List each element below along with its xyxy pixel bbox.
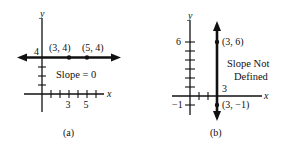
panel-a-left-arrow-icon [17,54,27,62]
panel-b-up-arrow-icon [213,21,221,31]
panel-a-x-tick-label-3: 3 [66,99,71,110]
panel-b-x-intercept-label: 3 [222,83,227,94]
panel-b-y-tick-label-neg1: −1 [172,99,183,110]
panel-a-right-arrow-icon [111,54,121,62]
panel-b-annotation-line-2: Defined [234,71,269,82]
panel-a: y x 3 5 4 (3, 4) (5, 4) Slope = 0 (a) [17,8,121,139]
panel-b-x-axis-label: x [263,90,269,101]
panel-a-x-axis-label: x [106,88,112,99]
panel-b: y x 6 −1 3 (3, 6) (3, −1) Slope Not Defi… [172,10,269,139]
panel-a-slope-annotation: Slope = 0 [56,69,96,80]
panel-a-point-5-4 [85,55,89,59]
panel-b-caption: (b) [210,127,222,139]
panel-b-point-label-3-6: (3, 6) [222,36,244,48]
panel-a-point-label-5-4: (5, 4) [82,42,104,54]
panel-a-y-axis-label: y [39,8,45,19]
panel-b-point-label-3-neg1: (3, −1) [222,99,249,111]
panel-a-point-3-4 [67,55,71,59]
panel-a-point-label-3-4: (3, 4) [49,42,71,54]
slope-figure: y x 3 5 4 (3, 4) (5, 4) Slope = 0 (a) y … [0,0,283,147]
panel-a-x-tick-label-5: 5 [84,99,89,110]
panel-b-y-axis-label: y [187,10,193,21]
panel-a-y-intercept-label: 4 [34,46,39,57]
panel-b-y-tick-label-6: 6 [176,36,181,47]
panel-b-point-3-neg1 [215,103,219,107]
panel-b-down-arrow-icon [213,111,221,121]
panel-b-annotation-line-1: Slope Not [227,58,269,69]
panel-a-caption: (a) [63,127,74,139]
panel-b-point-3-6 [215,40,219,44]
